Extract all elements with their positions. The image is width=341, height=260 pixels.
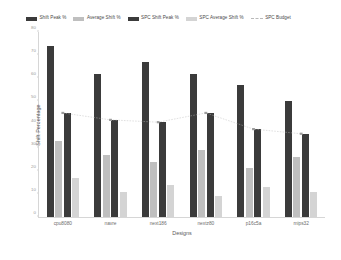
bar[interactable] <box>94 74 101 217</box>
bar[interactable] <box>246 168 253 217</box>
legend-swatch-icon <box>186 17 197 21</box>
bar-groups: cpu8080navrenext186nextz80p16c5amips32 <box>39 32 325 217</box>
bar[interactable] <box>237 85 244 217</box>
x-tick-label: navre <box>105 221 117 226</box>
legend-label: SPC Budget <box>265 16 291 21</box>
bar-group: mips32 <box>277 32 325 217</box>
bar[interactable] <box>285 101 292 217</box>
x-tick-label: cpu8080 <box>54 221 72 226</box>
legend-label: Average Shift % <box>87 16 121 21</box>
legend-item[interactable]: Average Shift % <box>73 16 120 21</box>
legend-label: SPC Average Shift % <box>199 16 243 21</box>
legend-label: Shift Peak % <box>40 16 67 21</box>
bar[interactable] <box>72 178 79 217</box>
bar[interactable] <box>64 113 71 217</box>
bar[interactable] <box>302 134 309 217</box>
bar-group: cpu8080 <box>39 32 87 217</box>
plot-area: cpu8080navrenext186nextz80p16c5amips32 <box>39 32 325 217</box>
bar[interactable] <box>215 196 222 217</box>
legend-swatch-icon <box>26 17 37 21</box>
x-tick-label: next186 <box>150 221 167 226</box>
bar[interactable] <box>142 62 149 217</box>
bar[interactable] <box>103 155 110 217</box>
y-tick-label: 40 <box>31 117 36 122</box>
legend-line-icon <box>251 18 263 19</box>
bar-group: next186 <box>134 32 182 217</box>
bar[interactable] <box>159 122 166 217</box>
chart-legend: Shift Peak %Average Shift %SPC Shift Pea… <box>26 12 326 25</box>
bar[interactable] <box>150 162 157 218</box>
y-tick-label: 10 <box>31 186 36 191</box>
legend-item[interactable]: SPC Average Shift % <box>186 16 244 21</box>
bar[interactable] <box>254 129 261 217</box>
x-tick-label: nextz80 <box>197 221 214 226</box>
x-axis-title: Designs <box>172 230 191 236</box>
y-tick-label: 0 <box>34 210 36 215</box>
chart-container: Shift Peak %Average Shift %SPC Shift Pea… <box>0 0 341 260</box>
bar[interactable] <box>111 120 118 217</box>
y-tick-label: 50 <box>31 94 36 99</box>
y-tick-label: 30 <box>31 140 36 145</box>
x-tick-label: p16c5a <box>246 221 262 226</box>
bar[interactable] <box>310 192 317 217</box>
bar[interactable] <box>263 187 270 217</box>
bar[interactable] <box>47 46 54 217</box>
bar-group: nextz80 <box>182 32 230 217</box>
bar[interactable] <box>293 157 300 217</box>
legend-item[interactable]: Shift Peak % <box>26 16 66 21</box>
x-tick-label: mips32 <box>293 221 308 226</box>
bar-group: p16c5a <box>230 32 278 217</box>
y-tick-label: 60 <box>31 71 36 76</box>
legend-item[interactable]: SPC Budget <box>251 16 291 21</box>
y-tick-label: 20 <box>31 163 36 168</box>
legend-label: SPC Shift Peak % <box>141 16 179 21</box>
bar[interactable] <box>198 150 205 217</box>
bar[interactable] <box>207 113 214 217</box>
y-tick-label: 80 <box>31 25 36 30</box>
legend-swatch-icon <box>73 17 84 21</box>
legend-item[interactable]: SPC Shift Peak % <box>128 16 179 21</box>
y-tick-label: 70 <box>31 48 36 53</box>
legend-swatch-icon <box>128 17 139 21</box>
bar[interactable] <box>55 141 62 217</box>
bar[interactable] <box>120 192 127 217</box>
bar[interactable] <box>167 185 174 217</box>
bar[interactable] <box>190 74 197 217</box>
plot-frame: Shift Percentage 01020304050607080 cpu80… <box>38 32 325 218</box>
bar-group: navre <box>87 32 135 217</box>
